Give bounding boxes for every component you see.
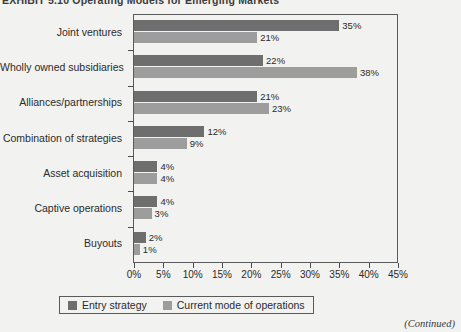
x-axis-tick-label: 0% (127, 269, 141, 280)
bar-value-label: 22% (263, 55, 285, 66)
x-axis-labels: 0%5%10%15%20%25%30%35%40%45% (0, 269, 461, 282)
bar-entry (134, 126, 204, 137)
category-label: Buyouts (0, 237, 128, 249)
x-axis-tick (369, 263, 370, 268)
bar-plot-area: 35%21%22%38%21%23%12%9%4%4%4%3%2%1% (134, 15, 398, 262)
y-axis-tick (128, 191, 134, 192)
y-axis-tick (128, 227, 134, 228)
bar-value-label: 3% (152, 208, 169, 219)
exhibit-title: EXHIBIT 5.10 Operating Models for Emergi… (2, 0, 461, 8)
x-axis-tick-label: 5% (156, 269, 170, 280)
bar-group: 12%9% (134, 121, 398, 156)
y-axis-tick (128, 121, 134, 122)
x-axis-tick-label: 30% (300, 269, 320, 280)
x-axis-tick-label: 25% (271, 269, 291, 280)
x-axis-tick (163, 263, 164, 268)
x-axis-tick-label: 10% (183, 269, 203, 280)
bar-value-label: 1% (140, 244, 157, 255)
x-axis-tick (222, 263, 223, 268)
bar-group: 4%4% (134, 156, 398, 191)
legend-swatch-current (163, 301, 172, 310)
x-axis-tick (134, 263, 135, 268)
bar-entry (134, 91, 257, 102)
category-label: Alliances/partnerships (0, 96, 128, 108)
bar-entry (134, 161, 157, 172)
x-axis-tick-label: 40% (359, 269, 379, 280)
category-label: Wholly owned subsidiaries (0, 61, 128, 73)
bar-value-label: 4% (157, 161, 174, 172)
legend-label: Entry strategy (82, 299, 147, 311)
bar-group: 4%3% (134, 191, 398, 226)
bar-value-label: 4% (157, 173, 174, 184)
chart-legend: Entry strategyCurrent mode of operations (59, 296, 314, 314)
bar-value-label: 21% (257, 91, 279, 102)
bar-value-label: 38% (357, 67, 379, 78)
x-axis-tick (310, 263, 311, 268)
bar-entry (134, 232, 146, 243)
bar-entry (134, 196, 157, 207)
legend-label: Current mode of operations (177, 299, 305, 311)
bar-current (134, 173, 157, 184)
category-label: Combination of strategies (0, 132, 128, 144)
x-axis-tick-label: 20% (241, 269, 261, 280)
category-label: Asset acquisition (0, 167, 128, 179)
x-axis-ticks (134, 263, 398, 268)
bar-current (134, 138, 187, 149)
x-axis-tick-label: 15% (212, 269, 232, 280)
bar-value-label: 23% (269, 103, 291, 114)
bar-value-label: 12% (204, 126, 226, 137)
bar-group: 35%21% (134, 15, 398, 50)
x-axis-tick-label: 35% (329, 269, 349, 280)
x-axis-tick (339, 263, 340, 268)
bar-value-label: 2% (146, 232, 163, 243)
bar-group: 22%38% (134, 50, 398, 85)
bar-value-label: 21% (257, 32, 279, 43)
x-axis-tick-label: 45% (388, 269, 408, 280)
legend-item: Current mode of operations (163, 299, 305, 311)
category-label: Captive operations (0, 202, 128, 214)
y-axis-labels: Joint venturesWholly owned subsidiariesA… (0, 15, 128, 262)
bar-group: 21%23% (134, 86, 398, 121)
category-label: Joint ventures (0, 26, 128, 38)
bar-current (134, 103, 269, 114)
bar-value-label: 9% (187, 138, 204, 149)
legend-item: Entry strategy (68, 299, 147, 311)
bar-value-label: 35% (339, 20, 361, 31)
y-axis-tick (128, 50, 134, 51)
y-axis-tick (128, 86, 134, 87)
bar-entry (134, 55, 263, 66)
bar-entry (134, 20, 339, 31)
bar-current (134, 208, 152, 219)
bar-current (134, 32, 257, 43)
y-axis-tick (128, 156, 134, 157)
x-axis-tick (251, 263, 252, 268)
x-axis-tick (398, 263, 399, 268)
x-axis-tick (193, 263, 194, 268)
continued-note: (Continued) (404, 318, 455, 329)
bar-value-label: 4% (157, 196, 174, 207)
bar-group: 2%1% (134, 227, 398, 262)
bar-current (134, 67, 357, 78)
legend-swatch-entry (68, 301, 77, 310)
x-axis-tick (281, 263, 282, 268)
